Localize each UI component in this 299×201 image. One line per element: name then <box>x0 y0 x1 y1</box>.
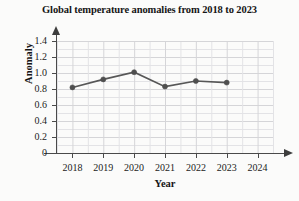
x-axis-title: Year <box>57 178 273 189</box>
y-tick-label: 1.2 <box>7 52 47 62</box>
x-tick-label: 2024 <box>238 162 278 173</box>
line-chart-figure: Global temperature anomalies from 2018 t… <box>0 0 299 201</box>
y-tick-label: 1.0 <box>7 68 47 78</box>
series-layer <box>57 41 273 153</box>
x-tick-mark <box>103 153 104 158</box>
x-tick-mark <box>72 153 73 158</box>
x-tick-mark <box>258 153 259 158</box>
x-tick-mark <box>165 153 166 158</box>
y-tick-label: 0.4 <box>7 116 47 126</box>
y-tick-label: 0 <box>7 148 47 158</box>
plot-area <box>57 41 273 153</box>
x-axis-arrow-icon <box>284 149 293 157</box>
x-axis-tick-labels: 2018201920202021202220232024 <box>0 162 299 176</box>
y-tick-label: 0.6 <box>7 100 47 110</box>
y-tick-label: 0.8 <box>7 84 47 94</box>
x-tick-mark <box>227 153 228 158</box>
y-tick-label: 1.4 <box>7 36 47 46</box>
x-tick-mark <box>196 153 197 158</box>
y-tick-label: 0.2 <box>7 132 47 142</box>
x-tick-mark <box>134 153 135 158</box>
